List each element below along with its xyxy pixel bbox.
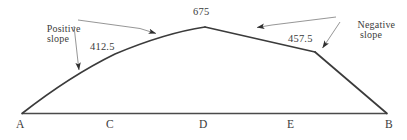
negative-slope-leader-lower [323, 22, 341, 48]
value-label-457-5: 457.5 [288, 33, 313, 44]
axis-label-b: B [385, 118, 393, 130]
value-label-412-5: 412.5 [90, 41, 115, 52]
negative-slope-annotation: Negative slope [345, 9, 397, 51]
slope-diagram: Positive slope Negative slope 412.5 675 … [0, 0, 407, 140]
axis-label-e: E [287, 118, 294, 130]
axis-label-d: D [199, 118, 208, 130]
negative-slope-annotation-text: Negative slope [358, 19, 396, 41]
positive-slope-annotation: Positive slope [36, 13, 80, 55]
positive-slope-annotation-text: Positive slope [47, 23, 81, 45]
axis-label-c: C [106, 118, 114, 130]
negative-slope-leader-upper [257, 17, 336, 28]
positive-slope-leader-upper [78, 20, 156, 34]
falling-curve-segment-eb [315, 52, 387, 114]
axis-label-a: A [16, 118, 25, 130]
value-label-675: 675 [193, 6, 209, 17]
